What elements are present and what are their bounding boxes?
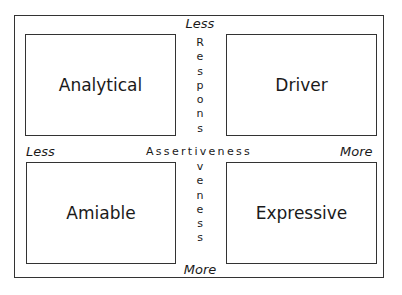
- quadrant-driver: Driver: [226, 34, 377, 136]
- quadrant-amiable: Amiable: [26, 162, 176, 264]
- axis-letter: e: [190, 203, 210, 217]
- axis-letter: o: [190, 93, 210, 107]
- quadrant-label: Expressive: [256, 203, 348, 223]
- quadrant-analytical: Analytical: [25, 34, 176, 136]
- quadrant-expressive: Expressive: [226, 162, 377, 264]
- responsiveness-axis-label-lower: v e n e s s: [190, 160, 210, 246]
- axis-letter: s: [190, 231, 210, 245]
- quadrant-label: Analytical: [59, 75, 142, 95]
- axis-letter: n: [190, 107, 210, 121]
- axis-letter: R: [190, 36, 210, 50]
- axis-letter: s: [190, 122, 210, 136]
- axis-letter: e: [190, 50, 210, 64]
- responsiveness-less-label: Less: [177, 16, 223, 31]
- assertiveness-more-label: More: [340, 144, 373, 159]
- axis-letter: v: [190, 160, 210, 174]
- responsiveness-axis-label-upper: R e s p o n s: [190, 36, 210, 136]
- axis-letter: n: [190, 189, 210, 203]
- responsiveness-more-label: More: [177, 262, 223, 277]
- quadrant-label: Driver: [275, 75, 327, 95]
- axis-letter: p: [190, 79, 210, 93]
- axis-letter: e: [190, 174, 210, 188]
- quadrant-label: Amiable: [66, 203, 135, 223]
- axis-letter: s: [190, 217, 210, 231]
- axis-letter: s: [190, 65, 210, 79]
- assertiveness-axis-label: Assertiveness: [146, 145, 252, 158]
- assertiveness-less-label: Less: [26, 144, 55, 159]
